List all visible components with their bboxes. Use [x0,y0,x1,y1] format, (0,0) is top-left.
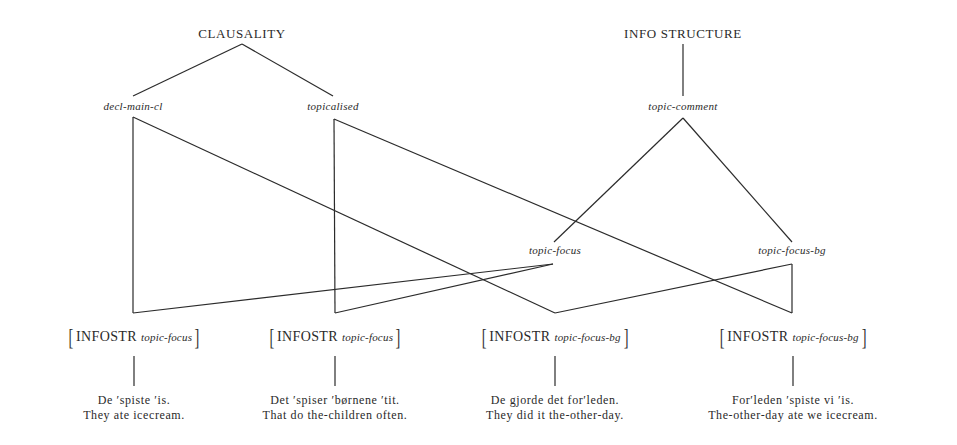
avm-attribute: INFOSTR [277,330,338,344]
edge-topicfocusbg-leaf3 [555,264,792,313]
right-bracket-icon: ] [396,325,401,349]
hierarchy-edges [0,0,957,445]
example-1: De ʹspiste ʹis. They ate icecream. [83,393,185,423]
example-sentence: De gjorde det forʹleden. [486,393,624,408]
left-bracket-icon: [ [269,325,274,349]
example-sentence: De ʹspiste ʹis. [83,393,185,408]
example-sentence: Forʹleden ʹspiste vi ʹis. [708,393,878,408]
example-sentence: Det ʹspiser ʹbørnene ʹtit. [263,393,408,408]
example-4: Forʹleden ʹspiste vi ʹis. The-other-day … [708,393,878,423]
node-info-structure: INFO STRUCTURE [624,27,742,40]
node-topic-focus: topic-focus [529,245,581,256]
node-topic-focus-bg: topic-focus-bg [758,245,826,256]
right-bracket-icon: ] [195,325,200,349]
left-bracket-icon: [ [68,325,73,349]
leaf-avm-1: [ INFOSTR topic-focus ] [67,325,201,349]
leaf-avm-4: [ INFOSTR topic-focus-bg ] [718,325,868,349]
avm-attribute: INFOSTR [727,330,788,344]
node-topicalised: topicalised [307,101,359,112]
example-gloss: They did it the-other-day. [486,408,624,423]
node-decl-main-cl: decl-main-cl [103,101,162,112]
edge-topicalised-leaf2 [334,119,335,313]
avm-value: topic-focus [342,332,393,343]
avm-value: topic-focus-bg [554,332,620,343]
example-gloss: They ate icecream. [83,408,185,423]
avm-value: topic-focus [141,332,192,343]
edge-topiccomment-topicfocus [554,118,683,242]
edge-clausality-topicalised [242,44,333,96]
example-3: De gjorde det forʹleden. They did it the… [486,393,624,423]
avm-attribute: INFOSTR [76,330,137,344]
leaf-avm-3: [ INFOSTR topic-focus-bg ] [480,325,630,349]
node-clausality: CLAUSALITY [198,27,286,40]
right-bracket-icon: ] [623,325,628,349]
edge-clausality-decl [133,44,242,96]
right-bracket-icon: ] [861,325,866,349]
avm-attribute: INFOSTR [489,330,550,344]
edge-topicfocus-leaf2 [335,264,553,313]
example-gloss: That do the-children often. [263,408,408,423]
edge-topicfocus-leaf1 [133,264,553,313]
edge-decl-leaf3 [133,117,555,313]
edge-topicalised-leaf4 [334,119,792,313]
example-gloss: The-other-day ate we icecream. [708,408,878,423]
left-bracket-icon: [ [720,325,725,349]
node-topic-comment: topic-comment [648,101,717,112]
example-2: Det ʹspiser ʹbørnene ʹtit. That do the-c… [263,393,408,423]
left-bracket-icon: [ [482,325,487,349]
leaf-avm-2: [ INFOSTR topic-focus ] [268,325,402,349]
avm-value: topic-focus-bg [792,332,858,343]
edge-topiccomment-topicfocusbg [683,118,792,242]
